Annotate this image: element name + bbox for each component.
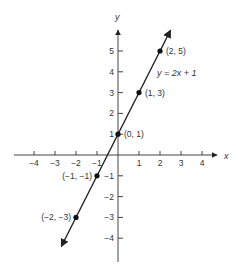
x-tick-label: 1 — [137, 158, 142, 168]
data-point — [157, 48, 162, 53]
data-point — [94, 173, 99, 178]
x-tick-label: −3 — [50, 158, 60, 168]
y-tick-label: 2 — [109, 108, 114, 118]
x-tick-label: 2 — [158, 158, 163, 168]
data-point — [73, 215, 78, 220]
y-tick-label: −4 — [104, 233, 114, 243]
line-y-equals-2x-plus-1 — [61, 30, 170, 246]
y-axis-label: y — [114, 12, 120, 22]
y-tick-label: −1 — [104, 171, 114, 181]
point-label: (2, 5) — [166, 46, 186, 56]
x-tick-label: 4 — [200, 158, 205, 168]
point-label: (0, 1) — [124, 129, 144, 139]
y-tick-label: 5 — [109, 46, 114, 56]
y-tick-label: −2 — [104, 192, 114, 202]
x-axis: −4−3−2−11234 x — [14, 151, 229, 168]
data-point — [115, 132, 120, 137]
y-axis: −4−3−2−112345 y — [104, 12, 123, 262]
y-tick-label: 4 — [109, 67, 114, 77]
x-tick-label: −1 — [92, 158, 102, 168]
x-tick-label: 3 — [179, 158, 184, 168]
point-label: (1, 3) — [145, 88, 165, 98]
line-chart: −4−3−2−11234 x −4−3−2−112345 y (2, 5)(1,… — [0, 0, 243, 276]
point-label: (−2, −3) — [41, 212, 71, 222]
x-axis-label: x — [223, 151, 229, 161]
equation-label: y = 2x + 1 — [156, 68, 197, 78]
point-label: (−1, −1) — [62, 171, 92, 181]
x-tick-label: −4 — [29, 158, 39, 168]
y-tick-label: −3 — [104, 212, 114, 222]
y-tick-label: 3 — [109, 88, 114, 98]
y-tick-label: 1 — [109, 129, 114, 139]
x-tick-label: −2 — [71, 158, 81, 168]
data-point — [136, 90, 141, 95]
